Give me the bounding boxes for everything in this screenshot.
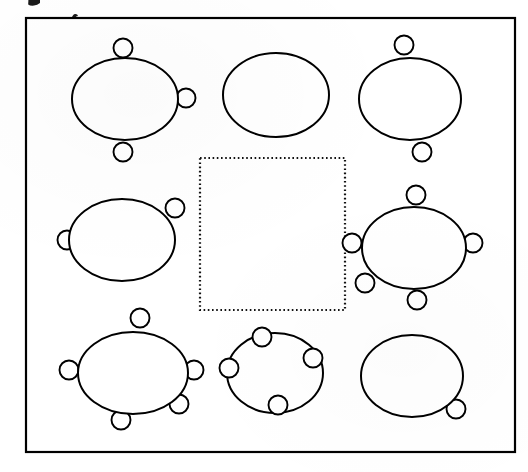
seat-circle[interactable] [407,186,426,205]
seat-circle[interactable] [220,359,239,378]
seat-circle[interactable] [177,89,196,108]
table-ellipse[interactable] [362,207,466,289]
seat-circle[interactable] [408,291,427,310]
scan-artifact-group [28,0,78,18]
seat-circle[interactable] [343,234,362,253]
table-ellipse[interactable] [72,58,178,140]
table-bottom-center[interactable] [220,328,324,415]
diagram-canvas [0,0,528,472]
top-left-glyph-fragment-icon [28,0,40,6]
table-bottom-left[interactable] [60,309,204,430]
table-top-center[interactable] [223,53,329,137]
seat-circle[interactable] [269,396,288,415]
table-top-right[interactable] [359,36,461,162]
seat-circle[interactable] [114,143,133,162]
table-ellipse[interactable] [69,199,175,281]
table-ellipse[interactable] [359,58,461,140]
seat-circle[interactable] [253,328,272,347]
seat-circle[interactable] [166,199,185,218]
seat-circle[interactable] [131,309,150,328]
seat-circle[interactable] [395,36,414,55]
seat-circle[interactable] [413,143,432,162]
seat-circle[interactable] [304,349,323,368]
seat-circle[interactable] [356,274,375,293]
dotted-center-zone [200,158,345,310]
table-top-left[interactable] [72,39,196,162]
table-ellipse[interactable] [223,53,329,137]
table-layout-drawing [0,0,528,472]
table-ellipse[interactable] [361,335,463,417]
seat-circle[interactable] [60,361,79,380]
table-middle-left[interactable] [58,199,185,282]
table-bottom-right[interactable] [361,335,466,419]
table-middle-right[interactable] [343,186,483,310]
table-ellipse[interactable] [78,332,188,414]
seat-circle[interactable] [114,39,133,58]
